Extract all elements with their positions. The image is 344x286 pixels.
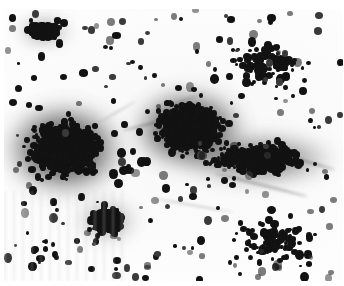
stained-cell <box>278 152 286 159</box>
stained-cell <box>274 97 278 100</box>
stained-cell <box>324 174 329 180</box>
stained-cell <box>207 184 211 187</box>
stained-cell <box>205 142 209 146</box>
stained-cell <box>243 72 250 80</box>
stained-cell <box>227 16 235 22</box>
stained-cell <box>260 222 265 228</box>
stained-cell <box>76 171 81 175</box>
stained-cell <box>317 125 321 128</box>
stained-cell <box>272 240 278 247</box>
stained-cell <box>238 220 244 225</box>
stained-cell <box>199 93 203 98</box>
stained-cell <box>257 19 261 23</box>
stained-cell <box>60 174 66 180</box>
stained-cell <box>61 118 68 126</box>
stained-cell <box>60 19 68 27</box>
stained-cell <box>152 73 157 78</box>
stained-cell <box>326 223 333 230</box>
stained-cell <box>245 159 252 166</box>
microscopy-field <box>4 9 343 281</box>
stained-cell <box>213 125 218 129</box>
left-margin <box>0 0 4 286</box>
stained-cell <box>31 154 37 161</box>
stained-cell <box>82 26 87 30</box>
stained-cell <box>75 123 80 129</box>
stained-cell <box>22 145 26 148</box>
stained-cell <box>145 109 150 114</box>
stained-cell <box>197 236 205 245</box>
stained-cell <box>262 191 269 197</box>
stained-cell <box>255 274 261 281</box>
stained-cell <box>274 162 279 168</box>
stained-cell <box>206 61 211 67</box>
stained-cell <box>109 74 115 79</box>
stained-cell <box>79 69 88 77</box>
stained-cell <box>229 182 236 188</box>
stained-cell <box>29 18 34 23</box>
stained-cell <box>81 144 84 147</box>
stained-cell <box>175 85 182 91</box>
stained-cell <box>54 17 62 23</box>
stained-cell <box>313 126 316 129</box>
stained-cell <box>172 123 178 128</box>
stained-cell <box>73 142 79 149</box>
stained-cell <box>117 148 126 158</box>
stained-cell <box>187 104 190 107</box>
stained-cell <box>26 102 32 107</box>
stained-cell <box>237 169 240 172</box>
stained-cell <box>206 177 210 181</box>
stained-cell <box>151 197 159 204</box>
stained-cell <box>191 144 194 147</box>
stained-cell <box>118 158 125 166</box>
stained-cell <box>319 206 325 213</box>
stained-cell <box>62 129 69 137</box>
bottom-margin <box>0 281 344 286</box>
stained-cell <box>92 123 97 128</box>
stained-cell <box>238 93 245 99</box>
stained-cell <box>43 133 46 136</box>
stained-cell <box>249 245 252 248</box>
stained-cell <box>299 87 306 95</box>
stained-cell <box>273 260 282 270</box>
stained-cell <box>216 36 223 43</box>
stained-cell <box>313 233 316 236</box>
stained-cell <box>309 255 314 260</box>
stained-cell <box>44 36 47 39</box>
stained-cell <box>294 160 301 168</box>
stained-cell <box>107 18 115 26</box>
stained-cell <box>263 144 269 149</box>
stained-cell <box>250 82 254 86</box>
stained-cell <box>232 176 237 181</box>
stained-cell <box>131 169 139 178</box>
stained-cell <box>225 120 232 128</box>
stained-cell <box>205 121 213 130</box>
stained-cell <box>54 163 59 167</box>
stained-cell <box>172 108 175 111</box>
stained-cell <box>230 101 233 105</box>
stained-cell <box>144 76 147 79</box>
stained-cell <box>291 94 295 99</box>
stained-cell <box>278 141 285 149</box>
stained-cell <box>28 166 36 172</box>
top-margin <box>0 0 344 9</box>
stained-cell <box>295 250 303 260</box>
stained-cell <box>187 250 192 255</box>
stained-cell <box>162 184 170 193</box>
stained-cell <box>132 273 139 281</box>
stained-cell <box>315 12 323 19</box>
stained-cell <box>86 157 89 161</box>
stained-cell <box>13 167 19 173</box>
stained-cell <box>199 151 207 160</box>
stained-cell <box>173 244 176 247</box>
stained-cell <box>291 68 294 71</box>
stained-cell <box>186 133 193 140</box>
stained-cell <box>236 152 240 156</box>
stained-cell <box>191 246 195 250</box>
stained-cell <box>235 63 238 66</box>
stained-cell <box>9 14 16 22</box>
stained-cell <box>235 232 239 235</box>
stained-cell <box>17 161 22 167</box>
stained-cell <box>189 193 196 200</box>
stained-cell <box>238 272 242 276</box>
stained-cell <box>38 52 46 61</box>
